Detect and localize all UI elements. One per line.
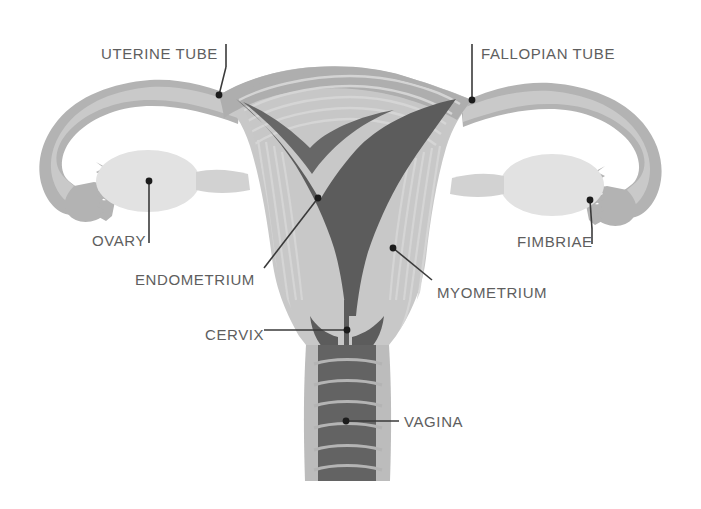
vagina-shape-group	[304, 345, 391, 481]
callout-dot-vagina	[343, 418, 350, 425]
callout-dot-fimbriae	[587, 197, 594, 204]
callout-dot-endometrium	[315, 195, 322, 202]
right-adnexa	[450, 83, 662, 226]
label-fimbriae: FIMBRIAE	[517, 234, 593, 249]
callout-dot-cervix	[344, 327, 351, 334]
label-cervix: CERVIX	[205, 327, 264, 342]
label-ovary: OVARY	[92, 233, 146, 248]
callout-leader-uterine-tube	[219, 67, 226, 95]
label-uterine-tube: UTERINE TUBE	[101, 46, 218, 61]
right-ovarian-ligament	[450, 174, 504, 197]
anatomy-diagram: UTERINE TUBEFALLOPIAN TUBEOVARYFIMBRIAEE…	[0, 0, 701, 509]
label-fallopian-tube: FALLOPIAN TUBE	[481, 46, 615, 61]
callout-dot-uterine-tube	[216, 92, 223, 99]
right-ovary-shape	[500, 154, 604, 216]
label-endometrium: ENDOMETRIUM	[135, 272, 255, 287]
label-vagina: VAGINA	[404, 414, 463, 429]
vaginal-rugae	[314, 345, 382, 481]
uterus-body	[219, 66, 472, 356]
left-adnexa	[39, 80, 250, 222]
anatomy-illustration	[0, 0, 701, 509]
callout-dot-myometrium	[390, 245, 397, 252]
callout-dot-ovary	[146, 178, 153, 185]
label-myometrium: MYOMETRIUM	[437, 285, 547, 300]
callout-dot-fallopian-tube	[469, 97, 476, 104]
left-ovarian-ligament	[196, 170, 250, 193]
